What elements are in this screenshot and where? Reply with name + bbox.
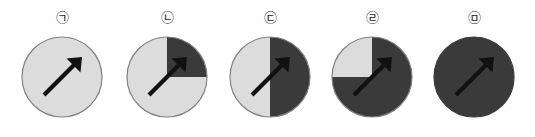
panel-label-3: ㉢ <box>261 9 279 27</box>
dial-4 <box>330 35 414 119</box>
dial-graphic-3 <box>228 35 312 119</box>
dial-3 <box>228 35 312 119</box>
dial-2 <box>125 35 209 119</box>
dial-graphic-5 <box>432 35 516 119</box>
dial-1 <box>20 35 104 119</box>
dial-series-figure: ㉠ ㉡ ㉢ <box>0 0 535 137</box>
dial-graphic-2 <box>125 35 209 119</box>
dial-panel-2: ㉡ <box>117 0 217 137</box>
panel-label-1: ㉠ <box>53 9 71 27</box>
dial-shaded-sector-3 <box>270 37 310 117</box>
panel-label-2: ㉡ <box>158 9 176 27</box>
dial-panel-3: ㉢ <box>220 0 320 137</box>
dial-panel-1: ㉠ <box>12 0 112 137</box>
panel-label-5: ㉤ <box>465 9 483 27</box>
panel-label-4: ㉣ <box>363 9 381 27</box>
dial-panel-5: ㉤ <box>424 0 524 137</box>
dial-panel-4: ㉣ <box>322 0 422 137</box>
dial-5 <box>432 35 516 119</box>
dial-graphic-1 <box>20 35 104 119</box>
dial-graphic-4 <box>330 35 414 119</box>
